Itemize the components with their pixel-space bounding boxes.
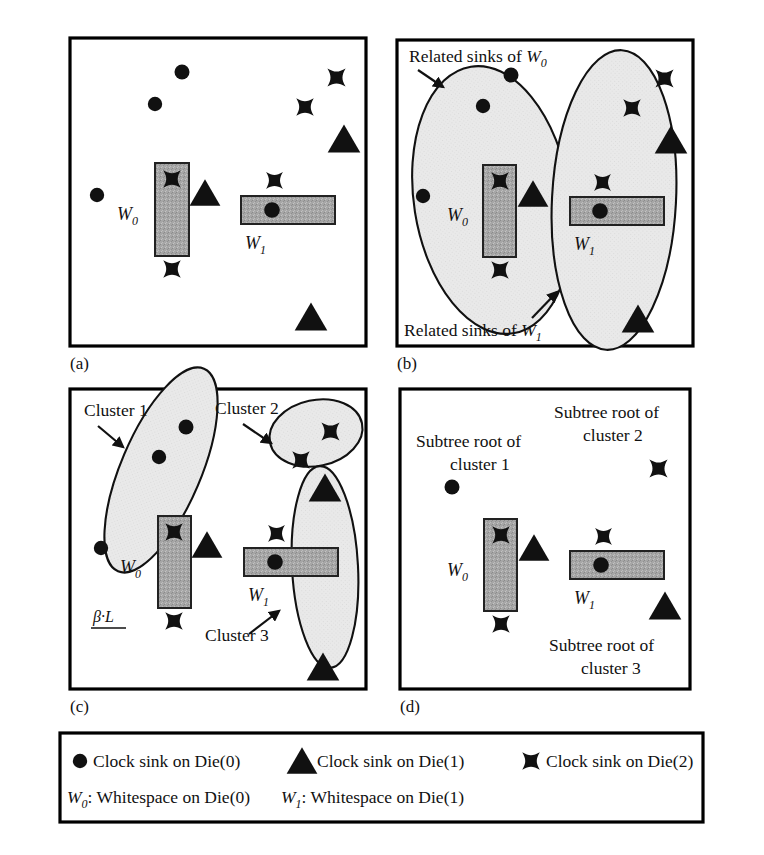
panel-c-whitespace-w1 [244, 548, 338, 576]
panel-a: W0 W1 (a) [70, 38, 366, 373]
annotation-cluster-1: Cluster 1 [84, 400, 148, 420]
panel-c-sink-die0 [267, 554, 283, 570]
annotation-subtree-root-cluster-3-line1: Subtree root of [549, 635, 654, 655]
panel-a-sink-die0 [148, 97, 162, 111]
panel-d: W0 W1 Subtree root of cluster 1 Subtree … [400, 389, 690, 716]
annotation-cluster-3: Cluster 3 [205, 625, 269, 645]
panel-c-letter: (c) [70, 697, 89, 716]
panel-b-sink-die0 [504, 68, 519, 83]
annotation-subtree-root-cluster-1-line1: Subtree root of [416, 431, 521, 451]
panel-c: W0 W1 Cluster 1 Cluster 2 Cluster 3 β·L … [70, 353, 369, 716]
panel-a-letter: (a) [70, 354, 89, 373]
annotation-subtree-root-cluster-3-line2: cluster 3 [581, 658, 641, 678]
panel-c-sink-die0 [179, 420, 194, 435]
figure-root: W0 W1 (a) W0 W1 [0, 0, 764, 855]
legend: Clock sink on Die(0) Clock sink on Die(1… [60, 733, 703, 822]
panel-d-whitespace-w1 [570, 551, 664, 579]
legend-label-die2-sink: Clock sink on Die(2) [546, 751, 693, 771]
panel-d-subtree-root-die0 [445, 480, 460, 495]
panel-a-sink-die0 [175, 65, 190, 80]
annotation-subtree-root-cluster-1-line2: cluster 1 [450, 454, 510, 474]
panel-b-whitespace-w1 [570, 197, 664, 225]
panel-b: W0 W1 Related sinks of W0 Related sinks … [394, 40, 693, 373]
panel-d-sink-die0 [593, 557, 609, 573]
panel-c-sink-die0 [94, 541, 108, 555]
panel-c-beta-l-label: β·L [92, 608, 114, 626]
panel-b-sink-die0 [592, 203, 608, 219]
panel-a-whitespace-w1 [241, 196, 335, 224]
legend-border [60, 733, 703, 822]
legend-label-die1-sink: Clock sink on Die(1) [317, 751, 464, 771]
filled-circle-icon [73, 754, 87, 768]
panel-d-letter: (d) [400, 697, 420, 716]
panel-b-sink-die0 [476, 99, 490, 113]
annotation-subtree-root-cluster-2-line1: Subtree root of [554, 402, 659, 422]
panel-a-sink-die0 [90, 188, 104, 202]
panel-b-letter: (b) [397, 354, 417, 373]
annotation-cluster-2: Cluster 2 [215, 398, 279, 418]
annotation-subtree-root-cluster-2-line2: cluster 2 [583, 425, 643, 445]
panel-b-sink-die0 [416, 189, 430, 203]
panel-a-border [70, 38, 366, 346]
panel-c-sink-die0 [152, 450, 166, 464]
legend-label-die0-sink: Clock sink on Die(0) [93, 751, 240, 771]
panel-a-sink-die0 [264, 202, 280, 218]
